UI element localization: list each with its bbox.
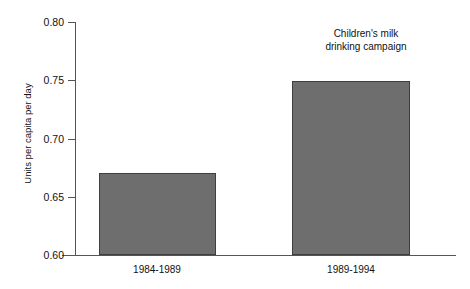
campaign-annotation-line-1: Children's milk bbox=[296, 27, 436, 40]
y-axis-tick-label-060: 0.60 bbox=[24, 249, 64, 261]
campaign-annotation-line-2: drinking campaign bbox=[296, 40, 436, 53]
y-axis-tick-label-075: 0.75 bbox=[24, 74, 64, 86]
bar-1989-1994 bbox=[292, 81, 410, 255]
x-axis-category-label-1989-1994: 1989-1994 bbox=[291, 264, 411, 275]
x-axis-line bbox=[62, 255, 456, 256]
y-axis-line bbox=[75, 22, 76, 256]
y-axis-tick-mark bbox=[68, 139, 75, 140]
campaign-annotation: Children's milk drinking campaign bbox=[296, 27, 436, 53]
y-axis-tick-label-070: 0.70 bbox=[24, 133, 64, 145]
bar-chart: Units per capita per day 0.80 0.75 0.70 … bbox=[0, 0, 470, 289]
y-axis-tick-mark bbox=[68, 22, 75, 23]
x-axis-category-label-1984-1989: 1984-1989 bbox=[97, 264, 217, 275]
y-axis-tick-mark bbox=[68, 197, 75, 198]
y-axis-tick-label-080: 0.80 bbox=[24, 16, 64, 28]
bar-1984-1989 bbox=[99, 173, 216, 255]
y-axis-tick-mark bbox=[68, 255, 75, 256]
y-axis-tick-label-065: 0.65 bbox=[24, 191, 64, 203]
y-axis-tick-mark bbox=[68, 80, 75, 81]
